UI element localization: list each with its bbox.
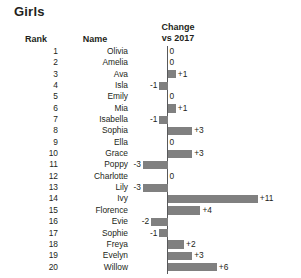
change-value-label: -2 — [0, 216, 149, 227]
cell-change-bar: -1 — [0, 80, 301, 91]
change-value-label: +3 — [194, 148, 204, 159]
change-value-label: +2 — [186, 239, 196, 250]
cell-change-bar: 0 — [0, 91, 301, 102]
cell-change-bar: -2 — [0, 216, 301, 227]
table-row: 1Olivia0 — [0, 46, 301, 57]
change-bar — [159, 229, 167, 237]
cell-change-bar: +1 — [0, 69, 301, 80]
cell-change-bar: +6 — [0, 262, 301, 273]
change-value-label: 0 — [170, 171, 175, 182]
change-bar — [168, 206, 201, 214]
change-value-label: -3 — [0, 159, 141, 170]
table-row: 8Sophia+3 — [0, 125, 301, 136]
change-value-label: +1 — [178, 103, 188, 114]
cell-change-bar: +3 — [0, 148, 301, 159]
change-bar — [151, 218, 167, 226]
cell-change-bar: 0 — [0, 57, 301, 68]
table-row: 13Lily-3 — [0, 182, 301, 193]
table-row: 10Grace+3 — [0, 148, 301, 159]
table-row: 16Evie-2 — [0, 216, 301, 227]
cell-change-bar: 0 — [0, 137, 301, 148]
column-header-change-line1: Change — [146, 22, 210, 33]
table-row: 20Willow+6 — [0, 262, 301, 273]
change-value-label: +4 — [202, 205, 212, 216]
cell-change-bar: +1 — [0, 103, 301, 114]
change-value-label: +1 — [178, 69, 188, 80]
column-header-name: Name — [62, 34, 128, 44]
change-bar — [168, 104, 176, 112]
change-bar — [143, 184, 168, 192]
table-row: 14Ivy+11 — [0, 193, 301, 204]
change-bar — [168, 70, 176, 78]
change-bar — [143, 161, 168, 169]
change-bar — [168, 195, 258, 203]
change-value-label: +3 — [194, 125, 204, 136]
change-value-label: 0 — [170, 46, 175, 57]
change-value-label: -1 — [0, 80, 157, 91]
change-value-label: -3 — [0, 182, 141, 193]
change-value-label: 0 — [170, 57, 175, 68]
change-bar — [159, 116, 167, 124]
table-row: 18Freya+2 — [0, 239, 301, 250]
table-row: 6Mia+1 — [0, 103, 301, 114]
change-value-label: +11 — [260, 193, 274, 204]
change-bar — [159, 82, 167, 90]
change-bar — [168, 150, 193, 158]
table-row: 12Charlotte0 — [0, 171, 301, 182]
table-row: 7Isabella-1 — [0, 114, 301, 125]
change-value-label: -1 — [0, 114, 157, 125]
change-value-label: +6 — [219, 262, 229, 273]
cell-change-bar: +11 — [0, 193, 301, 204]
change-value-label: -1 — [0, 228, 157, 239]
table-row: 17Sophie-1 — [0, 228, 301, 239]
change-value-label: 0 — [170, 137, 175, 148]
cell-change-bar: +3 — [0, 250, 301, 261]
cell-change-bar: 0 — [0, 46, 301, 57]
cell-change-bar: +3 — [0, 125, 301, 136]
cell-change-bar: -3 — [0, 159, 301, 170]
change-bar — [168, 127, 193, 135]
cell-change-bar: -1 — [0, 114, 301, 125]
table-row: 15Florence+4 — [0, 205, 301, 216]
page-title: Girls — [14, 4, 45, 19]
cell-change-bar: +2 — [0, 239, 301, 250]
rank-table-rows: 1Olivia02Amelia03Ava+14Isla-15Emily06Mia… — [0, 46, 301, 273]
table-row: 11Poppy-3 — [0, 159, 301, 170]
change-value-label: +3 — [194, 250, 204, 261]
cell-change-bar: -3 — [0, 182, 301, 193]
column-header-change-line2: vs 2017 — [146, 33, 210, 44]
change-value-label: 0 — [170, 91, 175, 102]
column-header-change: Change vs 2017 — [146, 22, 210, 44]
table-header: Rank Name Change vs 2017 — [0, 26, 301, 48]
column-header-rank: Rank — [14, 34, 58, 44]
cell-change-bar: +4 — [0, 205, 301, 216]
cell-change-bar: 0 — [0, 171, 301, 182]
table-row: 19Evelyn+3 — [0, 250, 301, 261]
table-row: 4Isla-1 — [0, 80, 301, 91]
table-row: 2Amelia0 — [0, 57, 301, 68]
cell-change-bar: -1 — [0, 228, 301, 239]
change-bar — [168, 252, 193, 260]
table-row: 9Ella0 — [0, 137, 301, 148]
change-bar — [168, 240, 184, 248]
table-row: 3Ava+1 — [0, 69, 301, 80]
table-row: 5Emily0 — [0, 91, 301, 102]
change-bar — [168, 263, 217, 271]
